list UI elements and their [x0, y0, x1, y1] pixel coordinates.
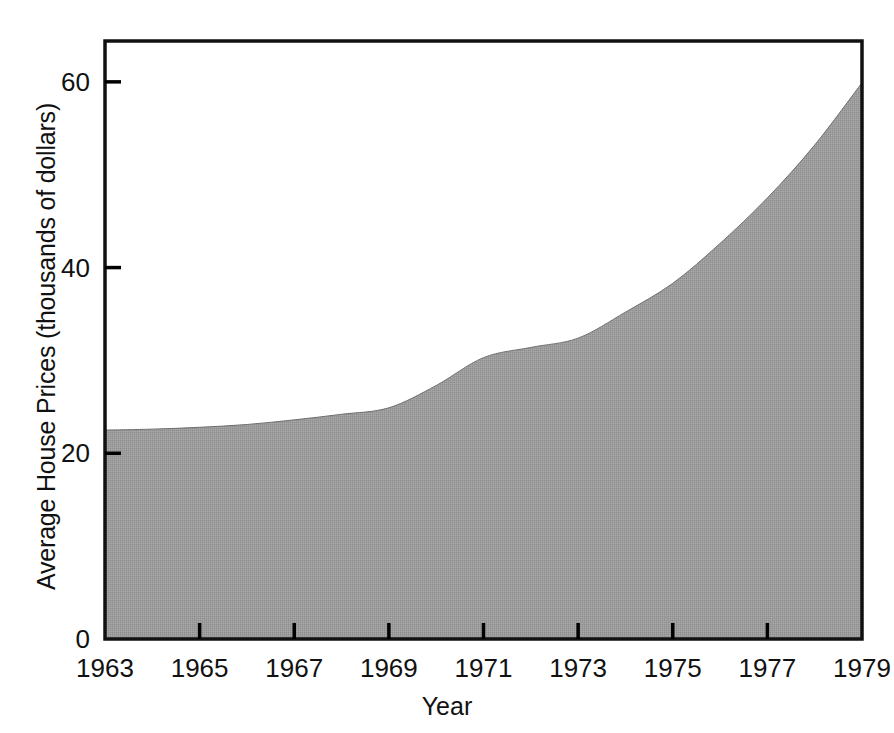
area-series-fill — [105, 83, 862, 643]
chart-figure: Average House Prices (thousands of dolla… — [0, 0, 894, 733]
y-axis-ticks — [105, 82, 121, 453]
plot-area — [0, 0, 894, 733]
